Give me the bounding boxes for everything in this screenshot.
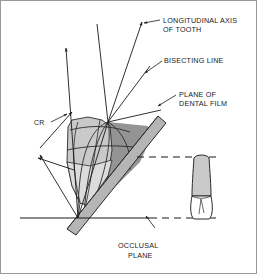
label-occlusal-plane-line2: PLANE [128, 251, 153, 260]
label-bisecting-line: BISECTING LINE [164, 56, 224, 65]
reference-tooth-root [192, 155, 211, 196]
label-central-ray: CR [34, 119, 45, 126]
figure-canvas: LONGITUDINAL AXIS OF TOOTH BISECTING LIN… [0, 0, 257, 274]
label-occlusal-plane-line1: OCCLUSAL [118, 241, 158, 250]
label-plane-of-dental-film-line1: PLANE OF [179, 90, 217, 99]
ray-line-bisecting-up [97, 24, 108, 122]
leader-longitudinal-axis [144, 20, 160, 23]
label-plane-of-dental-film-line2: DENTAL FILM [179, 99, 227, 108]
leader-plane-of-dental-film [158, 95, 176, 106]
reference-tooth-crown [191, 196, 213, 219]
label-longitudinal-axis-line1: LONGITUDINAL AXIS [163, 16, 237, 25]
dental-bisecting-angle-figure: LONGITUDINAL AXIS OF TOOTH BISECTING LIN… [0, 0, 257, 274]
label-longitudinal-axis-line2: OF TOOTH [163, 25, 201, 34]
ray-line-longitudinal-axis [108, 22, 142, 122]
leader-bisecting-line [145, 61, 162, 73]
